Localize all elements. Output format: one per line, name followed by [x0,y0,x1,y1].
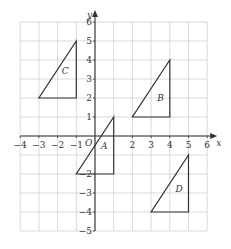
x-tick-label: −3 [32,140,46,150]
y-tick-label: −5 [79,226,93,236]
y-tick-label: −4 [79,207,93,217]
x-tick-label: 4 [167,140,173,150]
x-tick-label: −1 [70,140,83,150]
x-tick-label: −2 [51,140,64,150]
y-tick-label: 5 [86,36,92,46]
x-tick-label: 2 [130,140,136,150]
y-tick-label: −3 [79,188,93,198]
y-tick-label: 3 [86,74,92,84]
triangle-label-d: D [175,184,183,194]
y-tick-label: 1 [86,112,92,122]
y-axis-arrow-icon [92,10,98,17]
triangle-label-a: A [100,141,108,151]
x-tick-label: 3 [148,140,154,150]
triangle-label-c: C [62,66,69,76]
x-tick-label: 5 [186,140,192,150]
origin-label: O [85,138,93,148]
x-tick-label: 6 [204,140,210,150]
y-tick-label: 2 [86,93,92,103]
y-tick-label: 6 [86,17,92,27]
y-tick-label: 4 [86,55,92,65]
x-tick-label: −4 [14,140,28,150]
x-axis-label: x [216,138,221,148]
triangle-label-b: B [156,93,164,103]
coordinate-grid: xyO−4−3−2−123456654321−2−3−4−5ABCD [0,0,231,249]
